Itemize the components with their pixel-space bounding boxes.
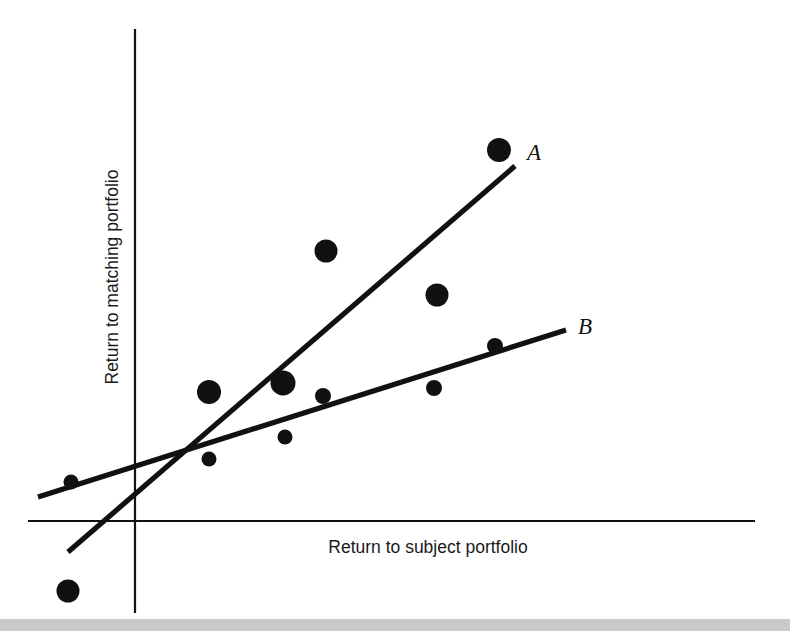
data-point (64, 475, 79, 490)
data-point (487, 338, 503, 354)
data-point (487, 138, 511, 162)
data-point (426, 284, 449, 307)
y-axis-title: Return to matching portfolio (102, 170, 122, 385)
data-point (278, 430, 293, 445)
axes-group (28, 29, 755, 613)
data-point (202, 452, 217, 467)
series-label-b: B (578, 314, 592, 339)
data-point (426, 380, 442, 396)
data-point (315, 240, 338, 263)
series-label-a: A (525, 140, 542, 165)
data-point (271, 371, 296, 396)
chart-figure: A B Return to subject portfolio Return t… (0, 0, 790, 631)
data-point (57, 580, 80, 603)
scatter-plot-canvas: A B Return to subject portfolio Return t… (0, 0, 790, 631)
x-axis-title: Return to subject portfolio (328, 537, 527, 557)
data-point (315, 388, 331, 404)
data-point (197, 380, 221, 404)
bottom-gray-band (0, 619, 790, 631)
